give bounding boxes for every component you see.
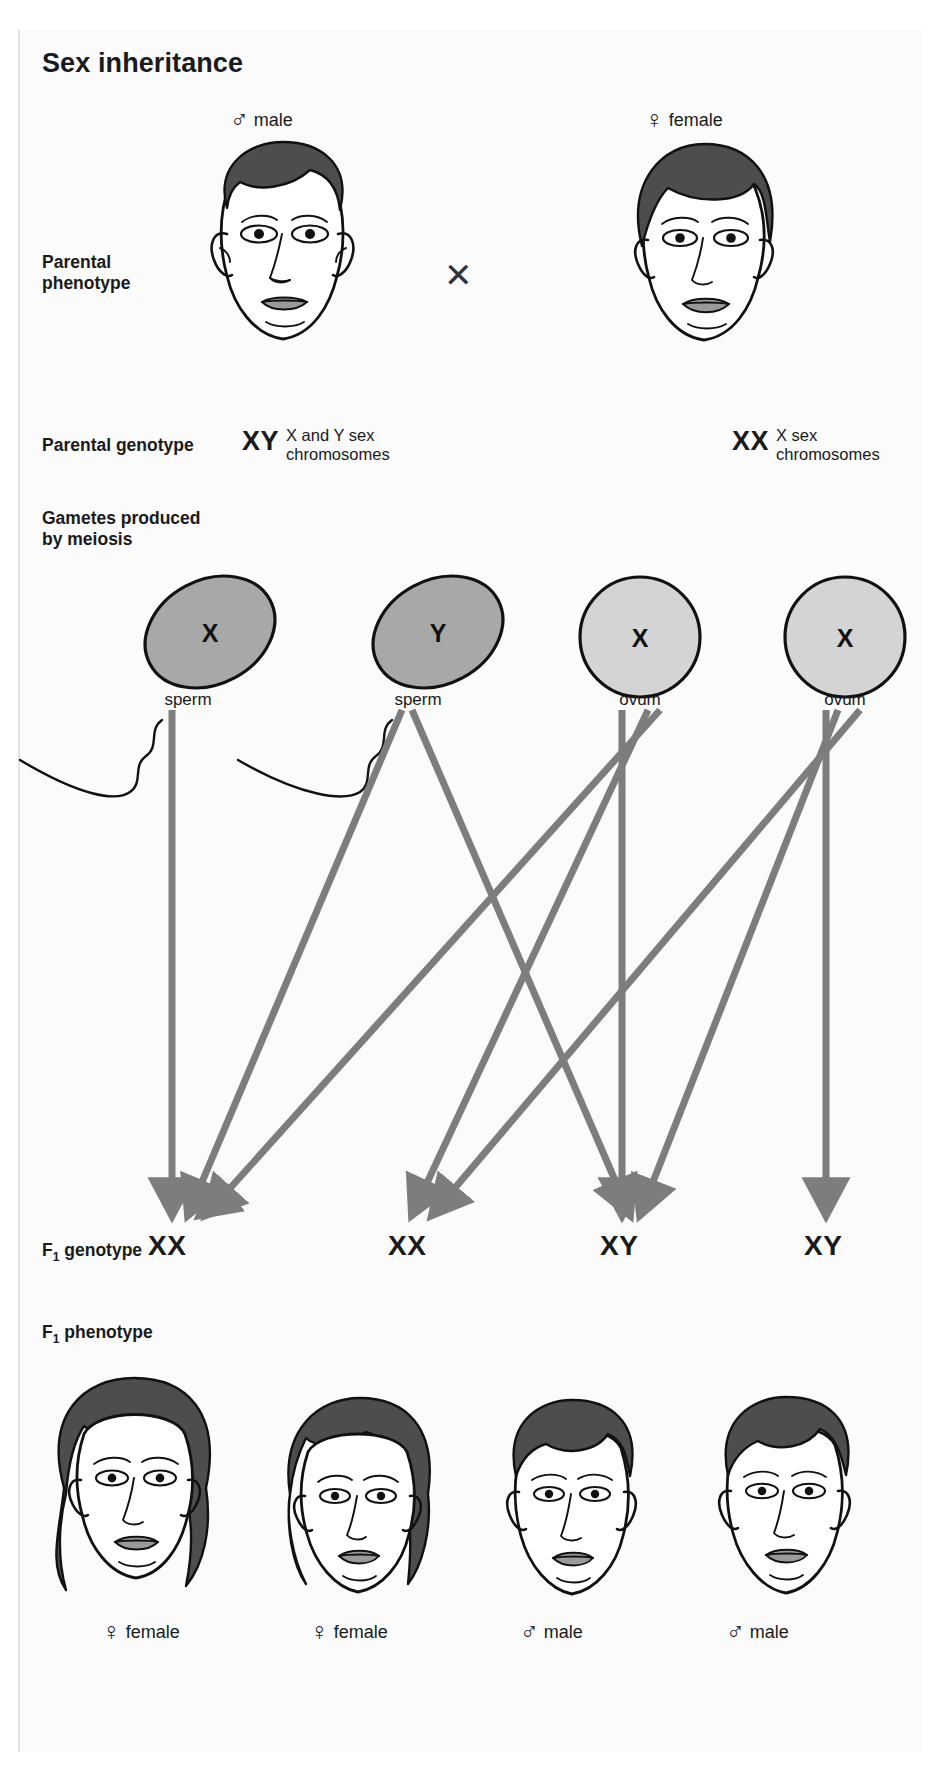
f1-face-3	[680, 1385, 895, 1620]
mars-icon: ♂	[230, 107, 249, 132]
parental-genotype-female-note: X sex chromosomes	[776, 426, 880, 465]
f1-phenotype-prefix: F	[42, 1322, 53, 1342]
f1-phenotype-label-3: ♂ male	[726, 1620, 789, 1645]
f1-genotype-3: XY	[804, 1230, 842, 1262]
cross-symbol: ✕	[444, 255, 473, 295]
f1-face-0	[26, 1368, 241, 1618]
mars-icon: ♂	[726, 1619, 745, 1644]
gamete-sperm-2: Y	[238, 554, 522, 796]
f1-genotype-2: XY	[600, 1230, 638, 1262]
male-parent-label: male	[254, 110, 293, 131]
gamete-label-0: sperm	[128, 690, 248, 710]
f1-genotype-sub: 1	[53, 1250, 60, 1264]
fusion-arrows	[172, 710, 860, 1215]
parental-phenotype-line1: Parental	[42, 252, 130, 273]
f1-phenotype-label-1: ♀ female	[310, 1620, 388, 1645]
male-parent-face	[170, 130, 400, 365]
parental-genotype-female: XX X sex chromosomes	[732, 426, 880, 465]
f1-genotype-0: XX	[148, 1230, 186, 1262]
f1-face-1	[258, 1390, 458, 1620]
female-parent-face	[590, 130, 820, 365]
parental-genotype-male-value: XY	[242, 426, 279, 457]
venus-icon: ♀	[102, 1619, 121, 1644]
female-parent-label: female	[669, 110, 723, 131]
venus-icon: ♀	[310, 1619, 329, 1644]
venus-icon: ♀	[645, 107, 664, 132]
gametes-line2: by meiosis	[42, 529, 201, 550]
page-title: Sex inheritance	[42, 48, 243, 79]
gamete-ovum-2: X	[785, 577, 905, 697]
f1-genotype-prefix: F	[42, 1240, 53, 1260]
parental-phenotype-row-label: Parental phenotype	[42, 252, 130, 295]
gamete-ovum-1: X	[580, 577, 700, 697]
f1-phenotype-row-label: F1 phenotype	[42, 1322, 153, 1346]
f1-genotype-word: genotype	[64, 1240, 142, 1260]
parental-genotype-female-value: XX	[732, 426, 769, 457]
parental-genotype-male: XY X and Y sex chromosomes	[242, 426, 390, 465]
f1-phenotype-label-0: ♀ female	[102, 1620, 180, 1645]
parental-genotype-male-note: X and Y sex chromosomes	[286, 426, 390, 465]
svg-text:X: X	[202, 619, 219, 647]
gametes-line1: Gametes produced	[42, 508, 201, 529]
f1-genotype-row-label: F1 genotype	[42, 1240, 142, 1264]
gametes-row-label: Gametes produced by meiosis	[42, 508, 201, 551]
parental-phenotype-line2: phenotype	[42, 273, 130, 294]
gamete-label-1: sperm	[358, 690, 478, 710]
gamete-sperm-1: X	[20, 554, 294, 796]
gamete-label-2: ovum	[580, 690, 700, 710]
f1-phenotype-sub: 1	[53, 1332, 60, 1346]
svg-text:X: X	[632, 624, 649, 652]
figure-panel: Sex inheritance ♂ male ♀ female Parental…	[18, 30, 922, 1752]
svg-text:Y: Y	[430, 619, 447, 647]
svg-text:X: X	[837, 624, 854, 652]
mars-icon: ♂	[520, 1619, 539, 1644]
f1-face-2	[472, 1390, 672, 1620]
f1-genotype-1: XX	[388, 1230, 426, 1262]
f1-phenotype-word: phenotype	[64, 1322, 152, 1342]
gamete-label-3: ovum	[785, 690, 905, 710]
f1-phenotype-label-2: ♂ male	[520, 1620, 583, 1645]
parental-genotype-row-label: Parental genotype	[42, 435, 194, 456]
